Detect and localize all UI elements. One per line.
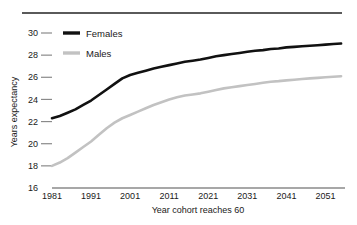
x-tick-label: 1991 [81, 191, 101, 201]
chart-figure: 1618202224262830 19811991200120112021203… [0, 0, 357, 225]
y-tick-label: 20 [28, 139, 38, 149]
y-tick-label: 24 [28, 95, 38, 105]
x-tick-label: 1981 [42, 191, 62, 201]
data-series-group [52, 44, 341, 166]
y-tick-label: 18 [28, 161, 38, 171]
x-tick-label: 2051 [315, 191, 335, 201]
chart-legend: Females Males [63, 28, 123, 59]
y-tick-label: 22 [28, 117, 38, 127]
y-tick-label: 26 [28, 72, 38, 82]
y-tick-label: 16 [28, 183, 38, 193]
x-axis-title: Year cohort reaches 60 [152, 205, 245, 215]
x-axis-ticks: 19811991200120112021203120412051 [42, 191, 335, 201]
x-tick-label: 2031 [237, 191, 257, 201]
series-line-males [52, 76, 341, 166]
x-tick-label: 2021 [198, 191, 218, 201]
y-axis-ticks: 1618202224262830 [28, 28, 52, 193]
y-axis-title: Years expectancy [9, 76, 19, 147]
y-tick-label: 28 [28, 50, 38, 60]
x-tick-label: 2041 [276, 191, 296, 201]
legend-label-males: Males [86, 48, 112, 59]
x-tick-label: 2011 [160, 191, 179, 201]
y-tick-label: 30 [28, 28, 38, 38]
line-chart-plot: 1618202224262830 19811991200120112021203… [0, 0, 357, 225]
legend-label-females: Females [86, 28, 123, 39]
x-tick-label: 2001 [120, 191, 140, 201]
